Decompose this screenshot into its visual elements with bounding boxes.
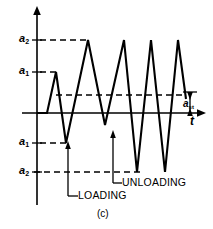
y-tick-label-a2-lower: a2 — [19, 164, 29, 177]
x-axis — [22, 109, 206, 116]
figure-caption: (c) — [97, 208, 109, 219]
x-axis-label: t — [190, 114, 194, 128]
figure-container: a2 a1 a1 a2 ast t LOADING UNLOADING (c) — [0, 0, 213, 229]
cyclic-stress-waveform — [37, 40, 186, 172]
unloading-label: UNLOADING — [122, 176, 186, 188]
a-st-label: ast — [183, 98, 194, 110]
y-tick-label-a1-upper: a1 — [19, 64, 29, 77]
loading-label: LOADING — [78, 189, 127, 201]
unloading-leader — [110, 130, 122, 183]
y-tick-label-a2-upper: a2 — [19, 32, 29, 45]
y-axis — [33, 6, 41, 205]
y-tick-label-a1-lower: a1 — [19, 135, 29, 148]
loading-leader — [65, 141, 78, 196]
